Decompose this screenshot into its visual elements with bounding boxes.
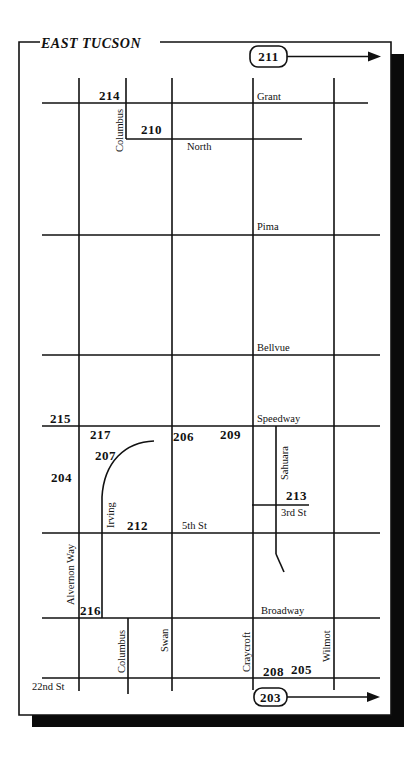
location-208[interactable]: 208 bbox=[263, 664, 284, 679]
badge-label: 211 bbox=[258, 49, 278, 64]
street-label-3rd-st: 3rd St bbox=[281, 507, 306, 518]
street-label-bellvue: Bellvue bbox=[257, 342, 290, 353]
location-207[interactable]: 207 bbox=[95, 448, 116, 463]
street-label-wilmot: Wilmot bbox=[321, 630, 332, 662]
location-209[interactable]: 209 bbox=[220, 427, 241, 442]
badge-label: 203 bbox=[260, 690, 281, 705]
map-title: EAST TUCSON bbox=[40, 36, 141, 51]
location-213[interactable]: 213 bbox=[286, 488, 307, 503]
street-label-grant: Grant bbox=[257, 91, 281, 102]
street-label-columbus: Columbus bbox=[116, 630, 127, 673]
location-217[interactable]: 217 bbox=[90, 427, 111, 442]
street-label-columbus: Columbus bbox=[114, 109, 125, 152]
street-label-sahuara: Sahuara bbox=[279, 446, 290, 480]
location-212[interactable]: 212 bbox=[127, 518, 148, 533]
street-label-5th-st: 5th St bbox=[182, 520, 207, 531]
east-tucson-map: EAST TUCSON GrantNorthPimaBellvueSpeedwa… bbox=[0, 0, 416, 757]
location-215[interactable]: 215 bbox=[50, 411, 71, 426]
street-label-swan: Swan bbox=[159, 628, 170, 652]
location-210[interactable]: 210 bbox=[141, 122, 162, 137]
location-216[interactable]: 216 bbox=[80, 603, 101, 618]
frame-shadow-bottom bbox=[32, 715, 404, 727]
street-label-irving: Irving bbox=[105, 502, 116, 528]
location-214[interactable]: 214 bbox=[99, 88, 120, 103]
location-204[interactable]: 204 bbox=[51, 470, 72, 485]
location-206[interactable]: 206 bbox=[173, 429, 194, 444]
frame-shadow-right bbox=[391, 54, 404, 727]
street-label-22nd-st: 22nd St bbox=[32, 681, 64, 692]
street-label-craycroft: Craycroft bbox=[241, 632, 252, 672]
street-label-alvernon-way: Alvernon Way bbox=[65, 543, 76, 605]
street-label-broadway: Broadway bbox=[261, 605, 305, 616]
location-205[interactable]: 205 bbox=[291, 662, 312, 677]
street-label-pima: Pima bbox=[257, 221, 279, 232]
street-label-speedway: Speedway bbox=[257, 413, 301, 424]
street-label-north: North bbox=[187, 141, 212, 152]
